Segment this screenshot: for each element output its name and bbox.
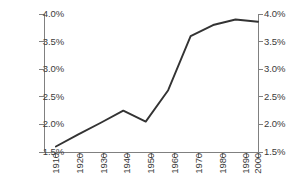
x-axis-tick-label-1940: 1940 (120, 153, 134, 193)
x-axis-tick-text: 1910 (51, 153, 61, 174)
x-axis-tick-label-1950: 1950 (144, 153, 158, 193)
x-axis-tick-text: 1990 (241, 153, 251, 174)
x-axis-tick-text: 1940 (122, 153, 132, 174)
y-axis-left-tick-label: 3.5% (43, 37, 64, 47)
x-axis-tick-label-1970: 1970 (192, 153, 206, 193)
x-axis-tick-label-1920: 1920 (73, 153, 87, 193)
y-axis-left-tick-label: 3.0% (43, 64, 64, 74)
x-axis-tick-text: 1930 (99, 153, 109, 174)
x-axis-tick-text: 1960 (170, 153, 180, 174)
x-axis-tick-text: 1950 (146, 153, 156, 174)
axis-frame (44, 14, 258, 152)
y-axis-right-tick-label: 4.0% (264, 9, 285, 19)
y-axis-left-tick-label: 2.0% (43, 120, 64, 130)
y-axis-right-tick-label: 3.5% (264, 37, 285, 47)
x-axis-tick-text: 2000 (253, 153, 263, 174)
y-axis-right-tick-label: 3.0% (264, 64, 285, 74)
x-axis-tick-label-2000: 2000 (251, 153, 265, 193)
y-axis-right-tick-label: 1.5% (264, 147, 285, 157)
y-axis-ticks-right (258, 14, 263, 152)
data-series-line (56, 20, 258, 147)
x-axis-tick-text: 1920 (75, 153, 85, 174)
y-axis-left-tick-label: 4.0% (43, 9, 64, 19)
y-axis-right-tick-label: 2.5% (264, 92, 285, 102)
x-axis-tick-label-1930: 1930 (96, 153, 110, 193)
x-axis-tick-text: 1970 (194, 153, 204, 174)
line-chart: 4.0% 3.5% 3.0% 2.5% 2.0% 1.5% 4.0% 3.5% … (0, 0, 300, 193)
y-axis-right-tick-label: 2.0% (264, 120, 285, 130)
x-axis-tick-label-1960: 1960 (168, 153, 182, 193)
x-axis-tick-text: 1980 (218, 153, 228, 174)
x-axis-tick-label-1910: 1910 (49, 153, 63, 193)
y-axis-left-tick-label: 2.5% (43, 92, 64, 102)
x-axis-tick-label-1980: 1980 (215, 153, 229, 193)
y-axis-ticks-left (39, 14, 44, 152)
